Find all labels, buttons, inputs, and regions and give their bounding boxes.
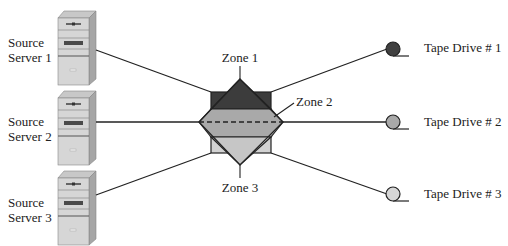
zone-2-pointer <box>274 103 294 117</box>
link-server-3 <box>96 153 211 195</box>
server-icon <box>58 91 96 165</box>
link-server-1 <box>96 50 211 92</box>
server-2-label-line1: Source <box>8 114 44 129</box>
server-1-label-line2: Server 1 <box>8 50 52 65</box>
tape-reel-icon <box>386 115 400 129</box>
tape-drive-2 <box>386 115 409 129</box>
tape-drive-1 <box>386 42 409 56</box>
server-2-label-line2: Server 2 <box>8 129 52 144</box>
tape-drive-2-label: Tape Drive # 2 <box>424 114 501 129</box>
server-3-label-line2: Server 3 <box>8 210 52 225</box>
server-3-label-line1: Source <box>8 195 44 210</box>
server-connections <box>96 50 211 195</box>
tape-reel-icon <box>386 187 400 201</box>
source-server-3 <box>58 171 96 245</box>
source-server-1 <box>58 11 96 85</box>
tape-drive-3-label: Tape Drive # 3 <box>424 186 501 201</box>
zone-2-label: Zone 2 <box>296 94 332 109</box>
tape-drive-1-label: Tape Drive # 1 <box>424 40 501 55</box>
tape-connections <box>271 49 387 194</box>
link-tape-3 <box>271 153 387 194</box>
tape-drive-3 <box>386 187 409 201</box>
server-icon <box>58 171 96 245</box>
server-1-label-line1: Source <box>8 35 44 50</box>
zone-2-area <box>199 109 283 137</box>
source-server-2 <box>58 91 96 165</box>
link-tape-1 <box>271 49 387 92</box>
zone-3-label: Zone 3 <box>222 180 258 195</box>
server-icon <box>58 11 96 85</box>
switch-zones <box>199 79 283 165</box>
tape-reel-icon <box>386 42 400 56</box>
zone-1-label: Zone 1 <box>222 50 258 65</box>
zoning-diagram: Source Server 1 Source Server 2 Source S… <box>0 0 508 246</box>
